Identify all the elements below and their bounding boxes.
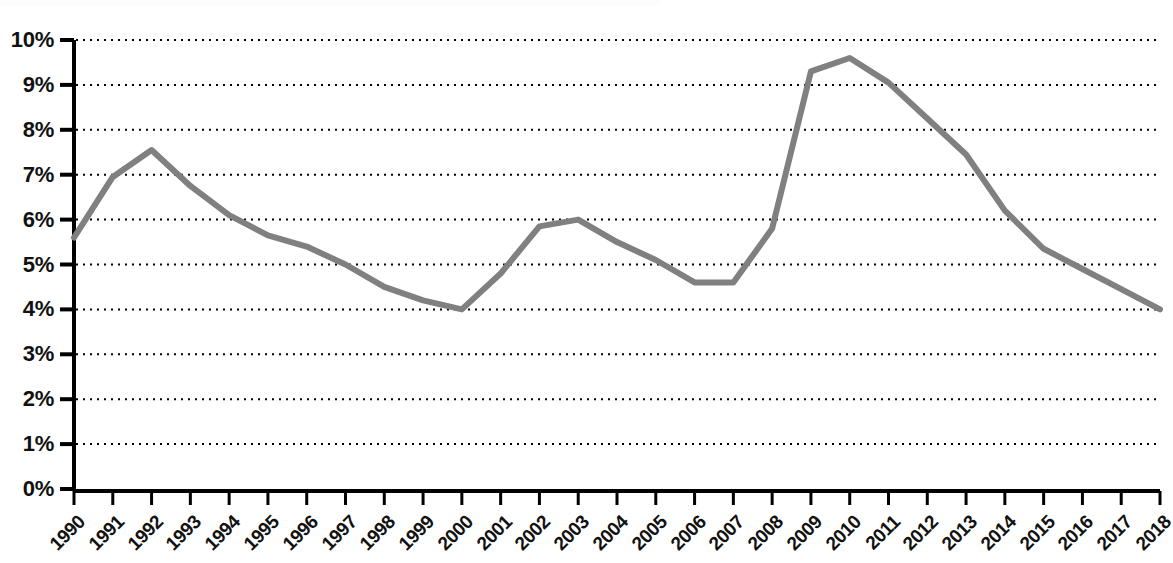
y-axis-label: 10% bbox=[0, 27, 54, 53]
y-axis-label: 0% bbox=[0, 476, 54, 502]
y-axis-label: 8% bbox=[0, 117, 54, 143]
x-axis-ticks-group bbox=[74, 491, 1160, 505]
data-series-line bbox=[74, 58, 1160, 309]
line-chart: 0%1%2%3%4%5%6%7%8%9%10% 1990199119921993… bbox=[0, 0, 1173, 563]
y-axis-label: 3% bbox=[0, 341, 54, 367]
y-axis-label: 6% bbox=[0, 207, 54, 233]
chart-plot-area bbox=[0, 0, 1173, 563]
y-axis-label: 5% bbox=[0, 252, 54, 278]
y-axis-label: 7% bbox=[0, 162, 54, 188]
y-axis-label: 4% bbox=[0, 296, 54, 322]
y-axis-label: 1% bbox=[0, 431, 54, 457]
y-axis-label: 2% bbox=[0, 386, 54, 412]
y-axis-label: 9% bbox=[0, 72, 54, 98]
y-axis-ticks-group bbox=[60, 40, 74, 489]
